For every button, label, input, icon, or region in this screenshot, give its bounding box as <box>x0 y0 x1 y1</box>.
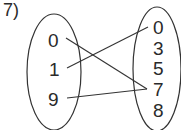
domain-item: 1 <box>49 59 60 80</box>
range-item: 0 <box>153 17 164 38</box>
domain-item: 0 <box>48 30 59 51</box>
mapping-diagram: 7) 0 1 9 0 3 5 7 8 <box>0 0 181 130</box>
range-item: 8 <box>153 100 164 121</box>
range-item: 7 <box>153 79 164 100</box>
domain-item: 9 <box>48 89 59 110</box>
range-item: 3 <box>153 38 164 59</box>
problem-label: 7) <box>3 0 19 20</box>
range-item: 5 <box>153 58 164 79</box>
